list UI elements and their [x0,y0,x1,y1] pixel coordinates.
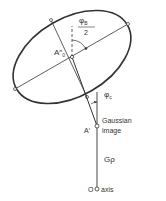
minor-axis-end-marker [50,19,53,22]
major-axis-end-marker [127,23,130,26]
minor-axis-line [51,20,87,97]
center-point [70,55,73,58]
center-point-label: A″0 [54,48,65,58]
axis-label: axis [101,186,114,193]
origin-label: O [88,186,94,193]
angle-arrow-dot [85,47,88,50]
angle-b-numerator: φB [79,16,88,26]
angle-b-denominator: 2 [84,29,88,36]
aberration-ellipse-diagram: A″0 φB 2 φc A′ Gaussian image Gρ O axis [0,0,166,201]
gaussian-label-line1: Gaussian [102,117,132,124]
angle-c-label: φc [104,90,112,100]
gaussian-image-point [95,124,99,128]
distance-label: Gρ [104,155,115,164]
image-point-label: A′ [84,127,91,134]
ray-to-gaussian-image [72,57,97,126]
origin-point [95,187,99,191]
angle-arc-phi-b [72,40,86,49]
gaussian-label-line2: image [102,127,121,135]
major-axis-end-marker [14,88,17,91]
